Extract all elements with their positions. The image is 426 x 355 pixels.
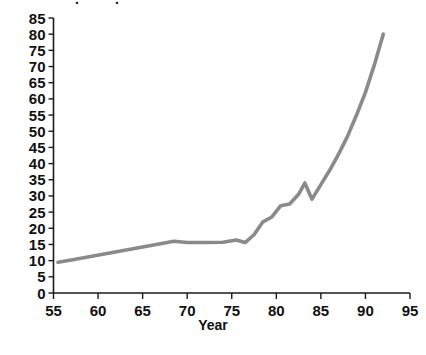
y-tick-label: 5	[37, 268, 45, 285]
y-tick-label: 50	[29, 123, 46, 140]
y-tick-label: 70	[29, 58, 46, 75]
chart-canvas: 0510152025303540455055606570758085 55606…	[0, 0, 426, 355]
y-tick-label: 35	[29, 171, 46, 188]
y-tick-label: 85	[29, 10, 46, 27]
y-tick-label: 45	[29, 139, 46, 156]
line-chart: . . 0510152025303540455055606570758085 5…	[0, 0, 426, 355]
data-series-line	[58, 34, 383, 262]
y-tick-label: 65	[29, 74, 46, 91]
y-tick-label: 55	[29, 107, 46, 124]
y-tick-label: 0	[37, 285, 45, 302]
y-axis-tick-labels: 0510152025303540455055606570758085	[29, 10, 46, 302]
x-tick-label: 65	[134, 302, 151, 319]
x-tick-label: 95	[402, 302, 419, 319]
x-axis-title: Year	[198, 317, 228, 333]
x-axis-tick-labels: 556065707580859095	[45, 302, 418, 319]
x-tick-label: 70	[179, 302, 196, 319]
x-tick-label: 55	[45, 302, 62, 319]
y-tick-label: 75	[29, 42, 46, 59]
y-tick-label: 40	[29, 155, 46, 172]
x-tick-label: 80	[268, 302, 285, 319]
y-tick-label: 10	[29, 252, 46, 269]
y-tick-label: 20	[29, 220, 46, 237]
y-tick-label: 80	[29, 26, 46, 43]
x-tick-label: 90	[357, 302, 374, 319]
y-tick-label: 60	[29, 90, 46, 107]
x-tick-label: 60	[90, 302, 107, 319]
x-tick-label: 85	[313, 302, 330, 319]
y-tick-label: 15	[29, 236, 46, 253]
y-tick-label: 30	[29, 187, 46, 204]
x-axis-tick-marks	[54, 293, 411, 299]
y-tick-label: 25	[29, 204, 46, 221]
